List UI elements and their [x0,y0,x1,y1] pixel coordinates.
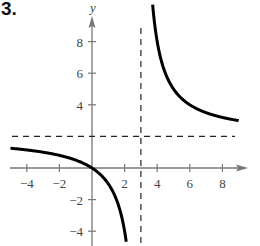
x-tick-label: 6 [187,176,194,191]
asymptotes [12,28,235,246]
function-curves [11,5,239,242]
right-branch-curve [153,5,239,121]
y-tick-label: −2 [69,193,83,208]
y-axis-label: y [88,0,96,15]
x-tick-label: −4 [20,176,34,191]
y-tick-label: 4 [77,98,84,113]
x-tick-label: 8 [219,176,226,191]
x-tick-label: 2 [121,176,128,191]
axes [10,16,248,246]
x-tick-label: 4 [154,176,161,191]
x-tick-label: −2 [52,176,66,191]
y-tick-label: −4 [69,224,83,239]
y-tick-label: 6 [77,66,84,81]
rational-function-graph: y−4−22468−4−2468 [0,0,260,246]
tick-labels: y−4−22468−4−2468 [20,0,226,239]
y-tick-label: 8 [77,35,84,50]
